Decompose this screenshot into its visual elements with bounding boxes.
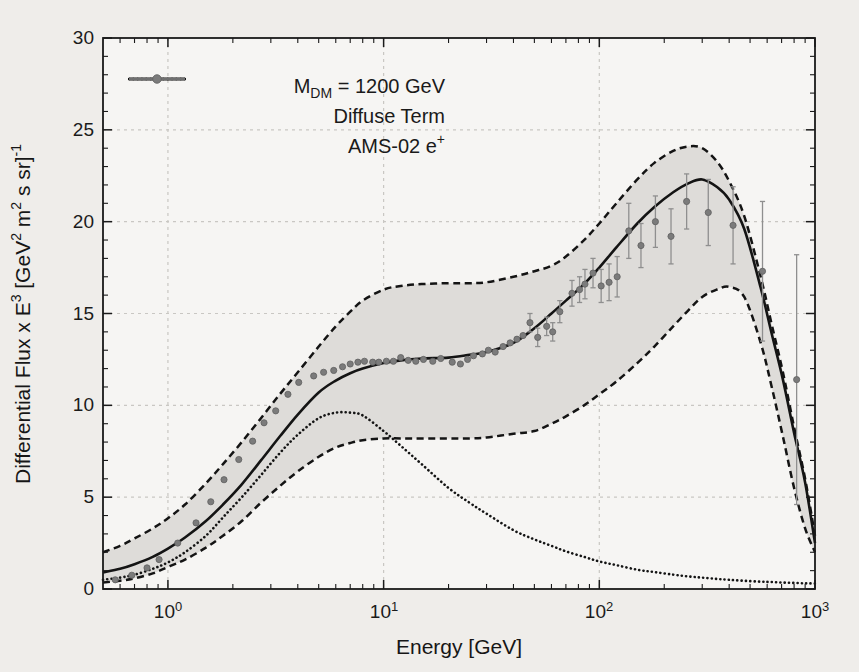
y-tick-label: 15 [48,303,94,325]
data-point [236,456,242,462]
data-point [261,420,267,426]
data-point [668,233,674,239]
data-point [582,281,588,287]
data-point [370,359,376,365]
y-tick-label: 5 [48,486,94,508]
data-point [500,343,506,349]
data-point [321,369,327,375]
data-point [144,565,150,571]
x-axis-label: Energy [GeV] [309,635,609,659]
data-point [193,520,199,526]
data-point [557,309,563,315]
legend-label: AMS-02 e+ [348,135,445,158]
data-point [464,356,470,362]
data-point [208,499,214,505]
data-point [794,377,800,383]
data-point [331,367,337,373]
data-point [614,274,620,280]
y-tick-label: 0 [48,578,94,600]
data-point [420,356,426,362]
data-point [355,359,361,365]
data-point [250,438,256,444]
data-point [652,219,658,225]
data-point [398,354,404,360]
data-point [470,353,476,359]
data-point [527,320,533,326]
data-point [221,477,227,483]
legend: MDM = 1200 GeVDiffuse TermAMS-02 e+ [120,71,445,161]
data-point [606,279,612,285]
data-point [405,357,411,363]
x-tick-label: 100 [138,601,198,625]
data-point [705,209,711,215]
data-point [285,391,291,397]
data-point [520,332,526,338]
data-point [535,334,541,340]
y-tick-label: 25 [48,119,94,141]
x-tick-label: 102 [569,601,629,625]
data-point [361,358,367,364]
legend-marker-dot [153,75,162,84]
data-point [479,351,485,357]
data-point [457,361,463,367]
legend-label: Diffuse Term [333,105,445,128]
data-point [514,336,520,342]
data-point [730,222,736,228]
data-point [376,359,382,365]
data-point [449,359,455,365]
data-point [569,290,575,296]
y-tick-label: 20 [48,211,94,233]
data-point [590,270,596,276]
data-point [296,379,302,385]
data-point [112,577,118,583]
data-point [347,361,353,367]
legend-marker-errorbar-sample [128,71,186,87]
data-point [129,572,135,578]
data-point [383,358,389,364]
legend-item-3: AMS-02 e+ [120,131,445,161]
data-point [430,358,436,364]
x-tick-label: 103 [785,601,845,625]
data-point [626,228,632,234]
data-point [175,540,181,546]
data-point [638,242,644,248]
data-point [273,408,279,414]
data-point [492,349,498,355]
data-point [759,268,765,274]
figure: Differential Flux x E3 [GeV2 m2 s sr]-1 … [0,0,859,672]
data-point [438,355,444,361]
data-point [156,557,162,563]
legend-item-2: Diffuse Term [120,101,445,131]
data-point [485,347,491,353]
data-point [339,364,345,370]
data-point [576,287,582,293]
data-point [507,340,513,346]
legend-label: MDM = 1200 GeV [294,75,445,98]
y-tick-label: 10 [48,394,94,416]
data-point [413,358,419,364]
data-point [550,329,556,335]
data-point [598,283,604,289]
x-tick-label: 101 [354,601,414,625]
data-point [311,373,317,379]
data-point [684,198,690,204]
y-tick-label: 30 [48,27,94,49]
y-axis-label: Differential Flux x E3 [GeV2 m2 s sr]-1 [11,24,37,604]
data-point [544,323,550,329]
data-point [390,358,396,364]
